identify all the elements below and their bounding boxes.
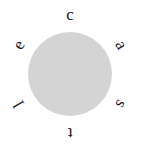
puzzle-canvas: castle (0, 0, 141, 146)
ring-letter-l: l (7, 91, 32, 116)
ring-letter-a: a (109, 32, 134, 57)
ring-letter-e: e (7, 32, 32, 57)
center-disc (28, 32, 112, 116)
ring-letter-c: c (61, 6, 79, 24)
ring-letter-t: t (61, 124, 79, 142)
ring-letter-s: s (109, 91, 134, 116)
